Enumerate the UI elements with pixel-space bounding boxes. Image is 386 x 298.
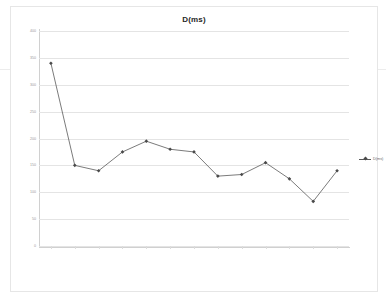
x-tick-mark [289,246,290,249]
y-tick-label: 350 [30,56,36,60]
y-tick-label: 300 [30,83,36,87]
chart-legend: D(ms) [359,157,383,161]
x-tick-mark [122,246,123,249]
chart-title: D(ms) [11,15,377,24]
chart-screenshot: D(ms) 050100150200250300350400 1月2月3月4月5… [0,0,386,298]
data-point-marker [49,61,53,65]
data-point-marker [168,147,172,151]
data-point-marker [144,139,148,143]
y-tick-label: 400 [30,29,36,33]
y-tick-label: 50 [32,217,36,221]
plot-area: 050100150200250300350400 1月2月3月4月5月6月7月8… [39,31,349,246]
legend-marker-icon [359,159,371,160]
y-tick-label: 100 [30,190,36,194]
x-tick-mark [99,246,100,249]
y-tick-label: 0 [34,244,36,248]
x-tick-mark [266,246,267,249]
x-tick-mark [242,246,243,249]
x-tick-mark [51,246,52,249]
x-tick-mark [194,246,195,249]
legend-entry-label: D(ms) [373,157,383,161]
data-point-marker [240,173,244,177]
chart-frame: D(ms) 050100150200250300350400 1月2月3月4月5… [10,6,378,292]
series-line-d-ms [39,31,349,246]
data-point-marker [73,164,77,168]
x-tick-mark [313,246,314,249]
x-tick-mark [337,246,338,249]
y-tick-label: 250 [30,110,36,114]
x-tick-mark [170,246,171,249]
x-tick-mark [146,246,147,249]
series-polyline [51,63,337,201]
x-tick-mark [75,246,76,249]
x-tick-mark [218,246,219,249]
y-tick-label: 150 [30,163,36,167]
y-tick-label: 200 [30,137,36,141]
